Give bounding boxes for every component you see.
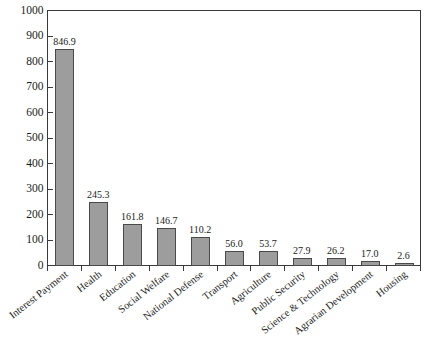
- y-tick-label: 500: [26, 131, 44, 143]
- bar: [158, 228, 176, 265]
- bar-value-label: 27.9: [293, 245, 311, 256]
- y-tick-label: 300: [26, 182, 44, 194]
- bar: [192, 237, 210, 265]
- bar-value-label: 110.2: [189, 224, 211, 235]
- bar-value-label: 53.7: [259, 238, 277, 249]
- bar: [226, 251, 244, 265]
- bar-value-label: 26.2: [327, 245, 345, 256]
- bar-series: [56, 50, 414, 266]
- category-label: Housing: [374, 268, 409, 299]
- category-label: Interest Payment: [7, 268, 70, 320]
- bar-value-label: 2.6: [397, 250, 410, 261]
- y-tick-label: 900: [26, 29, 44, 41]
- bar-value-label: 846.9: [53, 36, 76, 47]
- y-tick-label: 600: [26, 106, 44, 118]
- y-tick-label: 0: [38, 259, 44, 271]
- bar-value-label: 245.3: [87, 189, 110, 200]
- y-tick-label: 200: [26, 208, 44, 220]
- y-tick-label: 100: [26, 233, 44, 245]
- bar-value-label: 56.0: [225, 238, 243, 249]
- y-tick-label: 800: [26, 55, 44, 67]
- bar: [328, 259, 346, 266]
- bar: [260, 252, 278, 266]
- chart-canvas: 01002003004005006007008009001000 846.924…: [0, 0, 435, 352]
- bar: [56, 50, 74, 266]
- category-label: Health: [75, 268, 104, 294]
- bar-value-label: 17.0: [361, 248, 379, 259]
- bar-value-label: 146.7: [155, 215, 178, 226]
- category-labels: Interest PaymentHealthEducationSocial We…: [7, 268, 409, 337]
- bar-value-label: 161.8: [121, 211, 144, 222]
- bar: [294, 258, 312, 265]
- bar: [90, 203, 108, 266]
- y-tick-label: 1000: [21, 4, 44, 16]
- bar: [396, 264, 414, 266]
- y-tick-label: 700: [26, 80, 44, 92]
- bar: [124, 224, 142, 265]
- bar: [362, 261, 380, 265]
- category-label: National Defense: [141, 268, 206, 322]
- x-axis: [48, 266, 421, 271]
- y-tick-label: 400: [26, 157, 44, 169]
- bar-chart: 01002003004005006007008009001000 846.924…: [0, 0, 435, 352]
